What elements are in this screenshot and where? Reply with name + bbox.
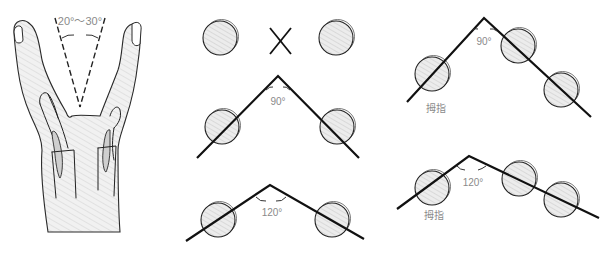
angle-label-90-thumb: 90°	[476, 36, 491, 47]
panel-thumb-angle-90: 90° 拇指	[407, 18, 591, 117]
finger-circle	[205, 109, 241, 145]
angle-label-90: 90°	[270, 96, 285, 107]
left-thumbnail	[14, 26, 23, 43]
diagram-canvas: 20°～30° 90° 120° 90° 拇指	[0, 0, 610, 257]
angle-line-left	[55, 18, 80, 107]
hand-outline	[14, 21, 140, 232]
hand-illustration: 20°～30°	[14, 15, 141, 232]
cross-icon	[270, 28, 291, 54]
right-thumbnail	[132, 22, 141, 45]
angle-label-120-thumb: 120°	[463, 177, 484, 188]
thumb-label: 拇指	[426, 102, 446, 114]
panel-thumb-angle-120: 120° 拇指	[397, 156, 599, 221]
angle-label-120: 120°	[262, 207, 283, 218]
angle-line-right	[80, 18, 105, 107]
finger-circle	[315, 202, 351, 238]
finger-circle	[501, 28, 537, 64]
panel-parallel-incorrect	[203, 20, 355, 56]
thumb-label: 拇指	[424, 209, 444, 221]
panel-angle-120: 120°	[186, 185, 364, 241]
panel-angle-90: 90°	[197, 76, 359, 158]
finger-circle	[319, 20, 355, 56]
finger-circle	[502, 161, 538, 197]
finger-circle	[320, 109, 356, 145]
finger-circle	[203, 20, 239, 56]
hand-angle-label: 20°～30°	[58, 15, 102, 27]
